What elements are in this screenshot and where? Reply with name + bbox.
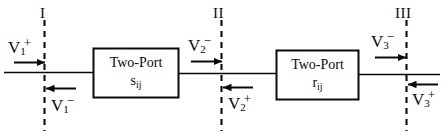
- wave-label-v1-plus: V1+: [8, 36, 31, 57]
- reference-plane-label-III: III: [395, 6, 412, 21]
- wave-label-v1-minus-sup: −: [67, 93, 74, 108]
- transmission-line: [4, 73, 440, 75]
- wave-label-v1-plus-sup: +: [24, 35, 31, 50]
- wave-label-v1-plus-var: V: [8, 38, 20, 57]
- wave-label-v2-minus-sup: −: [204, 33, 211, 48]
- two-port-box-r-title: Two-Port: [276, 56, 359, 74]
- reference-plane-label-I: I: [40, 6, 46, 21]
- two-port-box-s-subscript: ij: [136, 78, 142, 89]
- two-port-box-s-caption: Two-Port sij: [93, 54, 179, 91]
- wave-label-v2-plus: V2+: [228, 92, 251, 113]
- two-port-box-s-title: Two-Port: [93, 54, 179, 72]
- wave-label-v2-minus-var: V: [188, 36, 200, 55]
- wave-label-v1-minus: V1−: [51, 94, 74, 115]
- figure-canvas: I II III Two-Port sij Two-Port rij V1+ V…: [0, 0, 444, 136]
- wave-label-v2-minus: V2−: [188, 34, 211, 55]
- wave-label-v3-minus: V3−: [371, 30, 394, 51]
- two-port-box-r-subscript: ij: [317, 80, 323, 91]
- two-port-box-r-parameter: rij: [276, 74, 359, 93]
- wave-label-v3-plus: V3+: [412, 88, 435, 109]
- wave-label-v3-minus-var: V: [371, 32, 383, 51]
- wave-label-v2-plus-sup: +: [244, 91, 251, 106]
- wave-label-v2-plus-var: V: [228, 94, 240, 113]
- wave-label-v1-minus-var: V: [51, 96, 63, 115]
- reference-plane-label-II: II: [213, 6, 224, 21]
- wave-label-v3-plus-sup: +: [428, 87, 435, 102]
- wave-label-v3-minus-sup: −: [387, 29, 394, 44]
- two-port-box-s-parameter: sij: [93, 72, 179, 91]
- two-port-box-r-caption: Two-Port rij: [276, 56, 359, 93]
- wave-label-v3-plus-var: V: [412, 90, 424, 109]
